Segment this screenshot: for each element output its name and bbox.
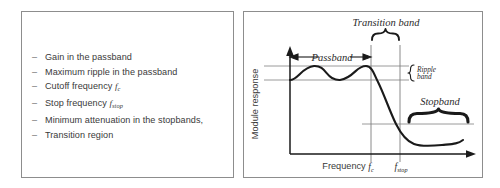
bullet-dash-icon: – xyxy=(32,96,45,111)
list-item: – Transition region xyxy=(32,128,229,143)
list-item: – Gain in the passband xyxy=(32,50,229,65)
list-item-label: Maximum ripple in the passband xyxy=(45,65,177,80)
bullet-dash-icon: – xyxy=(32,128,45,143)
bullet-dash-icon: – xyxy=(32,113,45,128)
stopband-label: Stopband xyxy=(420,96,460,107)
list-item-label: Minimum attenuation in the stopbands, xyxy=(45,113,203,128)
passband-arrow-right-head xyxy=(363,54,371,60)
x-tick-fstop: fstop xyxy=(395,162,408,173)
list-item: – Maximum ripple in the passband xyxy=(32,65,229,80)
y-axis-label: Module response xyxy=(250,69,260,139)
bullet-dash-icon: – xyxy=(32,65,45,80)
ripple-band-label-line2: band xyxy=(417,72,432,81)
ripple-band-brace-icon xyxy=(408,65,414,81)
list-item: – Cutoff frequency fc xyxy=(32,79,229,96)
bullet-dash-icon: – xyxy=(32,79,45,94)
bullet-dash-icon: – xyxy=(32,50,45,65)
x-axis-label: Frequency xyxy=(322,161,366,171)
list-item: – Minimum attenuation in the stopbands, xyxy=(32,113,229,128)
list-item-label: Transition region xyxy=(45,128,113,143)
transition-band-brace-icon xyxy=(372,29,399,40)
cutoff-marker-lines xyxy=(371,45,400,162)
filter-response-chart-panel: Passband Transition band Ripple band Sto… xyxy=(243,11,483,178)
y-axis-arrowhead xyxy=(286,46,294,56)
figure-root: – Gain in the passband – Maximum ripple … xyxy=(0,0,500,188)
list-item-label: Gain in the passband xyxy=(45,50,132,65)
list-item-label: Stop frequency fstop xyxy=(45,96,123,113)
specification-list-panel: – Gain in the passband – Maximum ripple … xyxy=(21,11,234,178)
symbol-subscript: stop xyxy=(112,102,123,109)
stopband-brace-icon xyxy=(409,109,468,122)
passband-label: Passband xyxy=(311,52,354,63)
transition-band-label: Transition band xyxy=(353,17,421,28)
spec-list: – Gain in the passband – Maximum ripple … xyxy=(32,50,229,143)
symbol-subscript: c xyxy=(118,85,121,92)
list-item-label: Cutoff frequency fc xyxy=(45,79,120,96)
x-axis-arrowhead xyxy=(466,150,476,158)
x-tick-labels: fc fstop xyxy=(368,162,407,173)
reference-lines xyxy=(264,66,474,124)
list-item: – Stop frequency fstop xyxy=(32,96,229,113)
x-tick-fc: fc xyxy=(368,162,374,173)
filter-response-plot: Passband Transition band Ripple band Sto… xyxy=(244,12,482,177)
